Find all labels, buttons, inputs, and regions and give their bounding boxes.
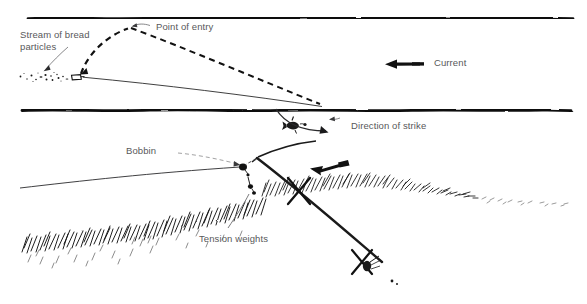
label-bobbin: Bobbin bbox=[126, 145, 156, 157]
rod-rest-front bbox=[288, 178, 310, 204]
rod-upper-segment bbox=[258, 141, 316, 157]
reed-bed-far-sparse bbox=[482, 197, 568, 206]
float-marker bbox=[72, 75, 85, 80]
tension-weights bbox=[248, 177, 256, 195]
angling-diagram-figure: Stream of bread particles Point of entry… bbox=[0, 0, 587, 304]
direction-of-strike-arrow-upper bbox=[276, 109, 340, 134]
reel bbox=[363, 256, 398, 285]
bobbin-indicator bbox=[239, 164, 250, 177]
line-taut bbox=[83, 77, 322, 106]
rod bbox=[252, 158, 382, 262]
direction-of-strike-arrow-lower bbox=[310, 160, 350, 176]
label-stream-of-bread-particles: Stream of bread particles bbox=[20, 29, 90, 52]
label-direction-of-strike: Direction of strike bbox=[351, 120, 426, 132]
fishing-line bbox=[20, 167, 240, 188]
label-tension-weights: Tension weights bbox=[199, 233, 268, 245]
current-arrow bbox=[385, 60, 424, 69]
bread-particle-dots bbox=[20, 72, 69, 82]
label-current: Current bbox=[434, 57, 466, 69]
bobbin-leader bbox=[178, 153, 241, 167]
point-of-entry-leader bbox=[132, 23, 151, 27]
near-bank-line bbox=[28, 18, 573, 19]
far-bank-line bbox=[22, 110, 572, 111]
dashed-line-to-bobbin bbox=[245, 159, 256, 165]
label-point-of-entry: Point of entry bbox=[156, 21, 213, 33]
